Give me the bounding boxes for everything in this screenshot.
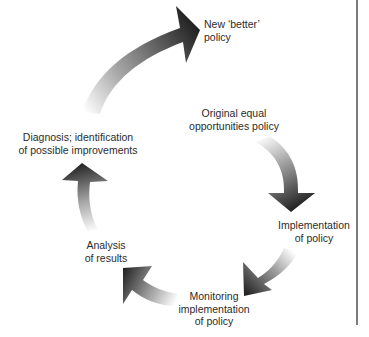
arrow-original-to-implementation (255, 136, 315, 212)
arrow-diagnosis-to-new-policy (82, 6, 200, 114)
node-new-policy: New ‘better’ policy (204, 18, 260, 43)
arrow-analysis-to-diagnosis (62, 163, 108, 232)
node-analysis: Analysis of results (78, 239, 134, 264)
node-monitoring: Monitoring implementation of policy (176, 290, 252, 328)
policy-cycle-diagram: New ‘better’ policy Original equal oppor… (0, 0, 369, 337)
arrow-implementation-to-monitoring (243, 248, 298, 296)
arrow-monitoring-to-analysis (123, 266, 178, 306)
node-implementation: Implementation of policy (276, 219, 352, 244)
page-margin-rule (356, 0, 358, 325)
node-diagnosis: Diagnosis; identification of possible im… (18, 131, 138, 156)
node-original-policy: Original equal opportunities policy (183, 107, 285, 132)
arrows-layer (0, 0, 369, 337)
